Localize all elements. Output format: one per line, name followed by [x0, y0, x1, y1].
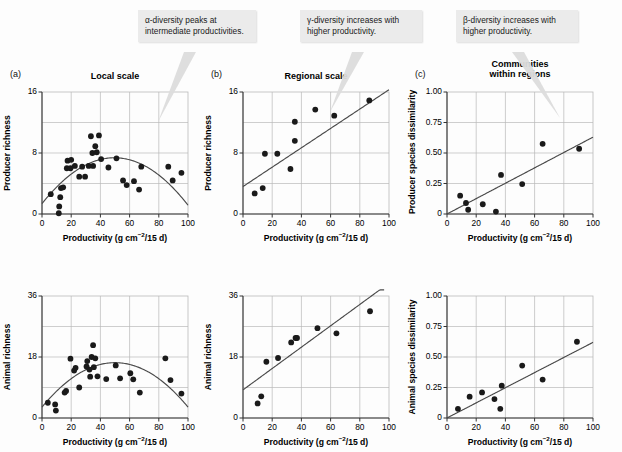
callout-beta: β-diversity increases with higher produc…	[456, 10, 578, 42]
callout-tail-0	[158, 52, 196, 122]
callout-tail-2	[512, 52, 560, 118]
callout-gamma: γ-diversity increases with higher produc…	[300, 10, 422, 42]
callout-alpha: α-diversity peaks at intermediate produc…	[138, 10, 256, 42]
figure-root: α-diversity peaks at intermediate produc…	[0, 0, 622, 452]
callout-tail-1	[330, 52, 364, 112]
